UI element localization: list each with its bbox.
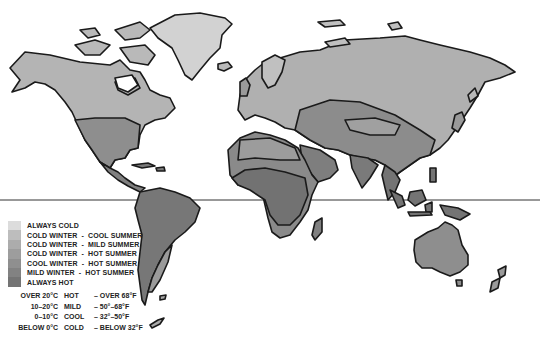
legend-label: COLD WINTER - COOL SUMMER	[27, 232, 142, 239]
temp-name: COOL	[64, 313, 94, 324]
temp-celsius: OVER 20°C	[10, 292, 58, 303]
legend-item-always-hot: ALWAYS HOT	[8, 277, 142, 286]
swatch	[8, 268, 21, 277]
temp-name: COLD	[64, 324, 94, 335]
temp-row-mild: 10–20°C MILD – 50°–68°F	[10, 303, 143, 314]
legend-label: COOL WINTER - HOT SUMMER	[27, 260, 137, 267]
legend-label: ALWAYS HOT	[27, 279, 74, 286]
temp-name: HOT	[64, 292, 94, 303]
temp-fahrenheit: – 32°–50°F	[94, 313, 129, 324]
swatch	[8, 240, 21, 249]
temp-row-cool: 0–10°C COOL – 32°–50°F	[10, 313, 143, 324]
temp-name: MILD	[64, 303, 94, 314]
swatch	[8, 230, 21, 239]
temp-row-hot: OVER 20°C HOT – OVER 68°F	[10, 292, 143, 303]
temp-celsius: 0–10°C	[10, 313, 58, 324]
temp-fahrenheit: – 50°–68°F	[94, 303, 129, 314]
iceland	[218, 62, 232, 71]
swatch	[8, 249, 21, 258]
australia	[414, 222, 468, 276]
legend-item-always-cold: ALWAYS COLD	[8, 221, 142, 230]
temp-row-cold: BELOW 0°C COLD – BELOW 32°F	[10, 324, 143, 335]
legend-item-mild-hot: MILD WINTER - HOT SUMMER	[8, 268, 142, 277]
legend-label: MILD WINTER - HOT SUMMER	[27, 269, 134, 276]
temperature-key: OVER 20°C HOT – OVER 68°F 10–20°C MILD –…	[10, 292, 143, 334]
new-zealand	[498, 266, 506, 278]
legend-label: COLD WINTER - MILD SUMMER	[27, 241, 139, 248]
tasmania	[456, 280, 462, 286]
new-zealand-south	[490, 278, 500, 292]
climate-legend: ALWAYS COLD COLD WINTER - COOL SUMMER CO…	[8, 221, 142, 287]
legend-item-cold-mild: COLD WINTER - MILD SUMMER	[8, 240, 142, 249]
temp-fahrenheit: – BELOW 32°F	[94, 324, 143, 335]
southeast-asia	[382, 165, 470, 220]
south-america	[135, 188, 200, 305]
temp-celsius: 10–20°C	[10, 303, 58, 314]
north-america	[10, 22, 175, 192]
swatch	[8, 277, 21, 286]
legend-label: ALWAYS COLD	[27, 222, 79, 229]
legend-label: COLD WINTER - HOT SUMMER	[27, 250, 137, 257]
temp-fahrenheit: – OVER 68°F	[94, 292, 136, 303]
legend-item-cool-hot: COOL WINTER - HOT SUMMER	[8, 259, 142, 268]
legend-item-cold-hot: COLD WINTER - HOT SUMMER	[8, 249, 142, 258]
legend-item-cold-cool: COLD WINTER - COOL SUMMER	[8, 230, 142, 239]
swatch	[8, 221, 21, 230]
swatch	[8, 259, 21, 268]
temp-celsius: BELOW 0°C	[10, 324, 58, 335]
